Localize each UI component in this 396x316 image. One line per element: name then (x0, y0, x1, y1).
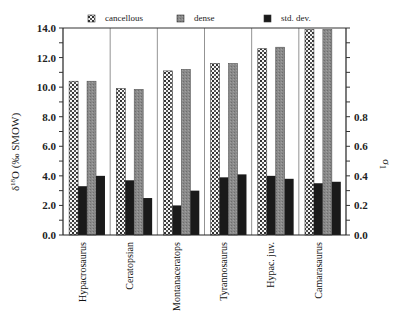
y-tick-label: 6.0 (42, 140, 56, 152)
legend-stddev: std. dev. (264, 13, 311, 23)
bar-stddev-cancellous (220, 177, 229, 235)
y-tick-label: 12.0 (37, 52, 57, 64)
bar-stddev-dense (238, 174, 247, 235)
bar-stddev-cancellous (314, 183, 323, 235)
bar-group: Hypac. juv. (258, 47, 294, 288)
legend-swatch (264, 15, 271, 22)
y-right-tick-label: 0.0 (354, 229, 368, 241)
y-right-tick-label: 0.2 (354, 199, 368, 211)
y-tick-label: 8.0 (42, 111, 56, 123)
y-tick-label: 10.0 (37, 81, 57, 93)
bar-cancellous (258, 49, 267, 235)
legend-label: dense (194, 13, 215, 23)
bar-group: Hypacrosaurus (69, 81, 105, 302)
bar-dense (181, 69, 190, 235)
bar-stddev-cancellous (125, 180, 134, 235)
bar-stddev-dense (285, 179, 294, 235)
legend-label: std. dev. (281, 13, 311, 23)
category-label: Ceratopsian (124, 242, 135, 290)
category-label: Tyrannosaurus (218, 242, 229, 301)
bar-group: Camarasaurus (305, 29, 341, 298)
bar-dense (229, 63, 238, 235)
bar-dense (323, 29, 332, 235)
y-right-tick-label: 0.4 (354, 170, 368, 182)
y-axis-title-right: σ1 (378, 159, 393, 169)
y-right-tick-label: 0.8 (354, 111, 368, 123)
plot-area: HypacrosaurusCeratopsianMontanaceratopsT… (69, 28, 341, 311)
category-label: Hypac. juv. (265, 242, 276, 288)
bar-group: Montanaceratops (163, 69, 199, 310)
category-label: Hypacrosaurus (77, 242, 88, 302)
bar-group: Tyrannosaurus (211, 63, 247, 300)
bar-dense (276, 47, 285, 235)
bar-cancellous (116, 89, 125, 235)
bar-stddev-cancellous (78, 186, 87, 235)
bar-stddev-cancellous (267, 176, 276, 235)
legend-swatch (88, 15, 95, 22)
bar-stddev-dense (190, 191, 199, 235)
bar-cancellous (211, 63, 220, 235)
y-tick-label: 0.0 (42, 229, 56, 241)
y-tick-label: 2.0 (42, 199, 56, 211)
legend-dense: dense (177, 13, 215, 23)
bar-stddev-dense (96, 176, 105, 235)
y-tick-label: 14.0 (37, 22, 57, 34)
bar-cancellous (69, 81, 78, 235)
category-label: Montanaceratops (171, 242, 182, 311)
bar-stddev-cancellous (172, 205, 181, 235)
bar-dense (87, 81, 96, 235)
category-label: Camarasaurus (313, 242, 324, 299)
y-axis-title-left: δ18O (‰ SMOW) (9, 113, 22, 192)
legend-swatch (177, 15, 184, 22)
bar-group: Ceratopsian (116, 89, 152, 290)
bar-stddev-dense (332, 182, 341, 235)
bar-stddev-dense (143, 198, 152, 235)
legend-label: cancellous (105, 13, 143, 23)
bar-dense (134, 89, 143, 235)
bar-cancellous (305, 29, 314, 235)
y-right-tick-label: 0.6 (354, 140, 368, 152)
y-tick-label: 4.0 (42, 170, 56, 182)
legend: cancellousdensestd. dev. (88, 13, 311, 23)
bar-chart: cancellousdensestd. dev. HypacrosaurusCe… (0, 0, 396, 316)
bar-cancellous (163, 71, 172, 235)
legend-cancellous: cancellous (88, 13, 143, 23)
